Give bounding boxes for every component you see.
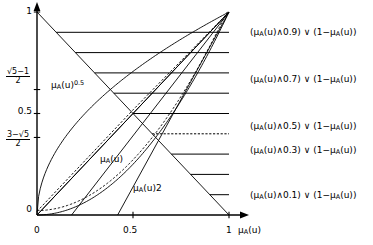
- curve-label-square-arg: (u)2: [143, 183, 161, 193]
- y-tick-0: 0: [18, 205, 32, 214]
- x-tick-0: 0: [34, 226, 40, 235]
- x-tick-05: 0.5: [123, 226, 137, 235]
- right-label-07-value: 0.7: [283, 74, 297, 84]
- curve-label-sqrt-arg: (u): [61, 80, 74, 90]
- x-axis-title-arg: (u): [248, 225, 261, 235]
- right-label-03: (μA(u)∧0.3) ∨ (1−μA(u)): [250, 146, 356, 156]
- figure-canvas: 1 √5−1 2 0.5 3−√5 2 0 0 0.5 1 μA(u) μA(u…: [0, 0, 373, 245]
- curve-label-square: μA(u)2: [133, 184, 162, 194]
- curve-label-identity: μA(u): [100, 155, 123, 165]
- y-tick-golden-upper-numerator: √5−1: [6, 68, 30, 76]
- right-label-05-value: 0.5: [283, 121, 297, 131]
- y-tick-golden-upper: √5−1 2: [2, 68, 34, 86]
- y-tick-golden-lower-denominator: 2: [6, 139, 30, 148]
- curve-label-sqrt: μA(u)0.5: [51, 80, 84, 91]
- y-tick-1: 1: [18, 7, 32, 16]
- right-label-05: (μA(u)∧0.5) ∨ (1−μA(u)): [250, 122, 356, 132]
- y-tick-golden-upper-denominator: 2: [6, 76, 30, 85]
- right-label-03-value: 0.3: [283, 145, 297, 155]
- x-axis-title: μA(u): [238, 226, 261, 236]
- y-tick-golden-lower-numerator: 3−√5: [6, 131, 30, 139]
- curve-label-sqrt-exponent: 0.5: [74, 79, 84, 87]
- right-label-01-value: 0.1: [283, 190, 297, 200]
- right-label-09-value: 0.9: [283, 27, 297, 37]
- right-label-01: (μA(u)∧0.1) ∨ (1−μA(u)): [250, 191, 356, 201]
- right-label-07: (μA(u)∧0.7) ∨ (1−μA(u)): [250, 75, 356, 85]
- y-tick-05: 0.5: [8, 107, 32, 116]
- x-tick-1: 1: [226, 226, 232, 235]
- curve-label-identity-arg: (u): [110, 154, 123, 164]
- y-tick-golden-lower: 3−√5 2: [2, 131, 34, 149]
- right-label-09: (μA(u)∧0.9) ∨ (1−μA(u)): [250, 28, 356, 38]
